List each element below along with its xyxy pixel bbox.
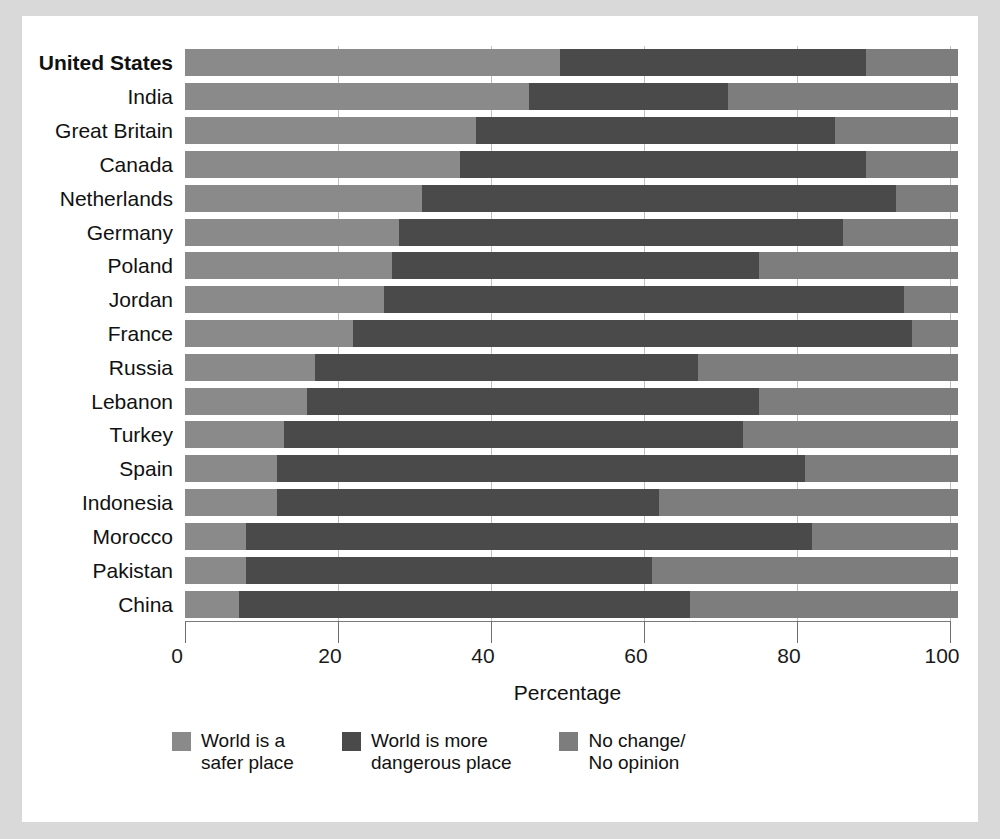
stacked-bar-row [185,557,950,584]
category-label: Great Britain [22,117,185,144]
legend-swatch-danger [342,732,361,751]
category-label: India [22,83,185,110]
stacked-bar-row [185,388,950,415]
bar-segment-danger [353,320,911,347]
stacked-bar-row [185,489,950,516]
x-tick [644,621,645,643]
category-label: Lebanon [22,388,185,415]
legend-swatch-safer [172,732,191,751]
bar-segment-nochange [866,151,958,178]
stacked-bar-row [185,354,950,381]
bar-segment-nochange [728,83,958,110]
bar-segment-danger [422,185,896,212]
category-label: China [22,591,185,618]
chart-card: United StatesIndiaGreat BritainCanadaNet… [22,16,978,822]
bar-segment-danger [384,286,904,313]
category-label: France [22,320,185,347]
bar-segment-nochange [743,421,957,448]
bar-segment-nochange [912,320,958,347]
stacked-bar-row [185,185,950,212]
stacked-bar-row [185,117,950,144]
legend-label-safer: World is a safer place [201,730,294,774]
x-tick [185,621,186,643]
x-tick [797,621,798,643]
stacked-bar-row [185,151,950,178]
stacked-bar-row [185,523,950,550]
plot-area [185,46,950,621]
bar-segment-danger [277,489,660,516]
x-axis-line [185,621,951,622]
bar-segment-safer [185,455,277,482]
category-label-text: France [108,320,173,347]
x-tick-label: 20 [318,644,341,668]
bar-segment-danger [315,354,698,381]
bar-segment-danger [239,591,690,618]
x-tick-label: 60 [624,644,647,668]
category-label-text: United States [39,49,173,76]
legend-item-safer: World is a safer place [172,730,294,774]
category-label-text: Pakistan [92,557,173,584]
x-tick [338,621,339,643]
bar-segment-nochange [698,354,958,381]
legend-item-nochange: No change/ No opinion [559,730,685,774]
bar-segment-safer [185,117,476,144]
bar-segment-danger [529,83,728,110]
category-label-text: Canada [99,151,173,178]
category-label: Indonesia [22,489,185,516]
bar-segment-danger [399,219,843,246]
bar-segment-safer [185,421,284,448]
bar-segment-safer [185,388,307,415]
bar-segment-nochange [652,557,958,584]
category-label-text: Netherlands [60,185,173,212]
bar-segment-nochange [759,252,958,279]
bar-segment-safer [185,354,315,381]
bar-segment-safer [185,286,384,313]
category-axis-labels: United StatesIndiaGreat BritainCanadaNet… [22,46,185,621]
category-label-text: Poland [108,252,173,279]
bar-segment-safer [185,523,246,550]
bar-segment-nochange [812,523,957,550]
x-tick-label: 80 [777,644,800,668]
bar-segment-safer [185,49,560,76]
bar-segment-danger [246,523,812,550]
bar-segment-nochange [835,117,957,144]
x-tick-label: 0 [171,644,183,668]
bar-segment-safer [185,591,239,618]
chart-legend: World is a safer placeWorld is more dang… [172,730,872,774]
category-label-text: Turkey [110,421,173,448]
bar-segment-danger [277,455,805,482]
bar-segment-nochange [659,489,957,516]
stacked-bar-row [185,252,950,279]
screenshot-root: United StatesIndiaGreat BritainCanadaNet… [0,0,1000,839]
bar-segment-safer [185,320,353,347]
legend-item-danger: World is more dangerous place [342,730,512,774]
stacked-bar-row [185,49,950,76]
legend-label-danger: World is more dangerous place [371,730,512,774]
category-label: Poland [22,252,185,279]
bar-segment-danger [246,557,651,584]
category-label-text: Spain [119,455,173,482]
stacked-bar-row [185,83,950,110]
stacked-bar-row [185,421,950,448]
category-label: Germany [22,219,185,246]
category-label: Pakistan [22,557,185,584]
bar-segment-nochange [866,49,958,76]
bar-segment-safer [185,185,422,212]
stacked-bar-row [185,455,950,482]
category-label: Russia [22,354,185,381]
bar-segment-danger [476,117,836,144]
x-tick [950,621,951,643]
category-label-text: China [118,591,173,618]
category-label: United States [22,49,185,76]
stacked-bar-row [185,591,950,618]
x-tick-label: 40 [471,644,494,668]
bar-segment-danger [392,252,759,279]
x-tick-label: 100 [924,644,959,668]
category-label: Jordan [22,286,185,313]
bar-segment-nochange [690,591,958,618]
category-label-text: Indonesia [82,489,173,516]
category-label-text: Morocco [92,523,173,550]
bar-segment-nochange [904,286,958,313]
bar-segment-safer [185,557,246,584]
bar-segment-safer [185,252,392,279]
